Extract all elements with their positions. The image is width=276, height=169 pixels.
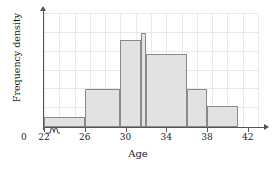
x-axis-tick-label: 38 xyxy=(197,132,217,142)
x-axis-tick-label: 26 xyxy=(75,132,95,142)
x-axis-title: Age xyxy=(0,148,276,159)
gridline-vertical xyxy=(258,14,259,127)
plot-area xyxy=(44,14,258,127)
gridline-horizontal xyxy=(44,51,258,52)
x-axis-arrow-icon xyxy=(264,124,269,130)
histogram-bar xyxy=(187,89,207,127)
gridline-horizontal xyxy=(44,13,258,14)
histogram-bar xyxy=(146,54,187,127)
histogram-bar xyxy=(120,40,140,127)
y-axis-line xyxy=(43,10,44,130)
histogram-chart: 0 222630343842 Age Frequency density xyxy=(0,0,276,169)
x-axis-tick-label: 22 xyxy=(34,132,54,142)
gridline-horizontal xyxy=(44,32,258,33)
y-axis-title: Frequency density xyxy=(11,0,22,118)
y-axis-arrow-icon xyxy=(40,6,46,11)
histogram-bar xyxy=(207,106,238,127)
histogram-bar xyxy=(85,89,121,127)
x-axis-line xyxy=(43,127,265,128)
x-axis-tick-label: 34 xyxy=(156,132,176,142)
x-axis-tick-label: 42 xyxy=(238,132,258,142)
x-axis-tick-label: 30 xyxy=(116,132,136,142)
x-axis-origin-label: 0 xyxy=(21,132,27,142)
histogram-bar xyxy=(44,117,85,127)
